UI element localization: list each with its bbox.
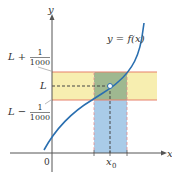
lower-label-leader bbox=[45, 100, 51, 104]
upper-label-den: 1000 bbox=[30, 58, 50, 67]
lower-label-den: 1000 bbox=[30, 113, 50, 122]
y-axis-label: y bbox=[47, 4, 54, 15]
lower-label-num: 1 bbox=[37, 103, 42, 112]
limit-point bbox=[108, 84, 113, 89]
upper-label-num: 1 bbox=[37, 48, 42, 57]
origin-label: 0 bbox=[44, 157, 50, 167]
x-axis-label: x bbox=[167, 148, 172, 159]
center-label: L bbox=[39, 80, 47, 91]
curve-label: y = f(x) bbox=[106, 33, 145, 44]
x0-label-sub: 0 bbox=[112, 162, 116, 170]
lower-label-prefix: L − bbox=[7, 106, 26, 117]
upper-label-leader bbox=[38, 67, 51, 71]
upper-label-prefix: L + bbox=[7, 51, 26, 62]
limit-diagram: y x 0 y = f(x) L + 1 1000 L L − 1 1000 x… bbox=[0, 0, 172, 176]
